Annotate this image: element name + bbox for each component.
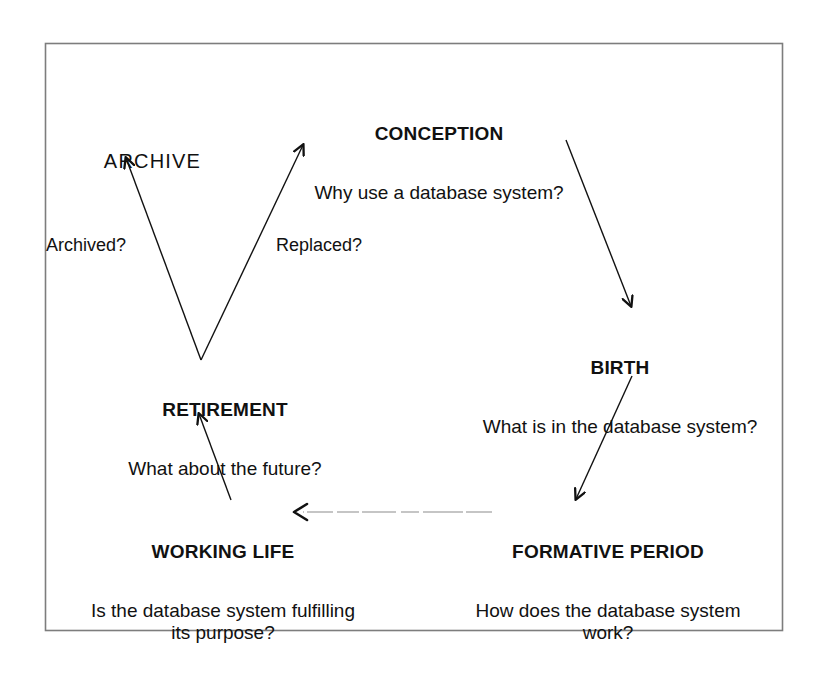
node-birth: BIRTH What is in the database system? <box>455 320 785 475</box>
node-formative-period-subtitle: How does the database system work? <box>448 600 768 644</box>
node-conception: CONCEPTION Why use a database system? <box>279 86 599 241</box>
node-conception-subtitle: Why use a database system? <box>279 182 599 204</box>
node-retirement-title: RETIREMENT <box>85 399 365 421</box>
edge-label-replaced: Replaced? <box>276 235 362 256</box>
node-retirement-subtitle: What about the future? <box>85 458 365 480</box>
node-formative-period-title: FORMATIVE PERIOD <box>448 541 768 563</box>
node-working-life: WORKING LIFE Is the database system fulf… <box>58 504 388 676</box>
node-retirement: RETIREMENT What about the future? <box>85 362 365 517</box>
edge-label-archived: Archived? <box>46 235 126 256</box>
node-working-life-subtitle: Is the database system fulfilling its pu… <box>58 600 388 644</box>
node-formative-period: FORMATIVE PERIOD How does the database s… <box>448 504 768 676</box>
node-conception-title: CONCEPTION <box>279 123 599 145</box>
node-birth-subtitle: What is in the database system? <box>455 416 785 438</box>
node-birth-title: BIRTH <box>455 357 785 379</box>
diagram-canvas: CONCEPTION Why use a database system? BI… <box>0 0 819 676</box>
node-archive: ARCHIVE <box>45 113 260 210</box>
node-working-life-title: WORKING LIFE <box>58 541 388 563</box>
node-archive-title: ARCHIVE <box>45 150 260 173</box>
